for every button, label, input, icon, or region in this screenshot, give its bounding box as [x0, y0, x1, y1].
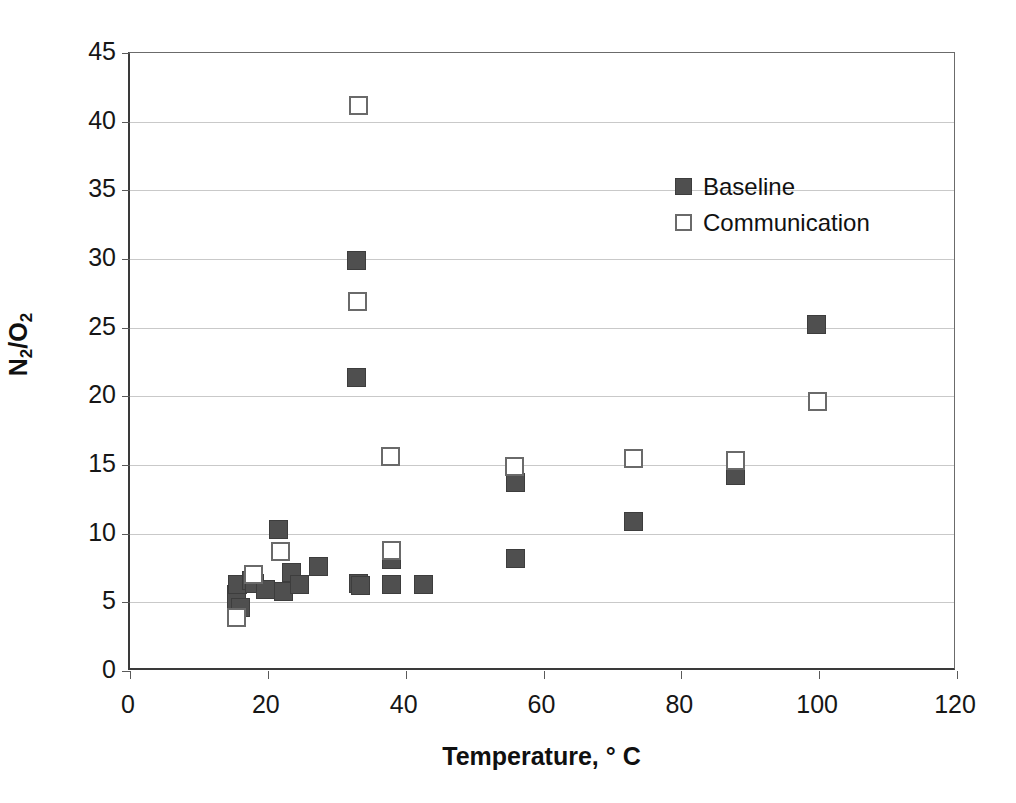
gridline — [130, 396, 954, 397]
y-tick-mark — [122, 465, 130, 466]
y-axis-title: N2/O2 — [4, 265, 33, 425]
gridline — [130, 122, 954, 123]
data-point-baseline — [414, 575, 433, 594]
data-point-communication — [624, 449, 643, 468]
data-point-baseline — [309, 557, 328, 576]
data-point-communication — [227, 608, 246, 627]
gridline — [130, 328, 954, 329]
x-tick-label: 80 — [639, 692, 719, 717]
data-point-communication — [808, 392, 827, 411]
y-tick-label: 10 — [88, 520, 116, 545]
scatter-chart-figure: 051015202530354045 N2/O2 BaselineCommuni… — [0, 0, 1016, 803]
x-tick-label: 20 — [226, 692, 306, 717]
y-tick-mark — [122, 328, 130, 329]
data-point-baseline — [347, 368, 366, 387]
data-point-baseline — [506, 549, 525, 568]
legend-swatch-baseline-icon — [675, 178, 692, 195]
x-tick-label: 40 — [364, 692, 444, 717]
gridline — [130, 259, 954, 260]
y-tick-mark — [122, 671, 130, 672]
y-tick-label: 20 — [88, 382, 116, 407]
data-point-baseline — [347, 251, 366, 270]
data-point-baseline — [807, 315, 826, 334]
data-point-communication — [244, 565, 263, 584]
data-point-baseline — [269, 520, 288, 539]
data-point-baseline — [290, 575, 309, 594]
legend-swatch-communication-icon — [675, 214, 692, 231]
y-tick-mark — [122, 53, 130, 54]
y-tick-label: 40 — [88, 108, 116, 133]
data-point-baseline — [382, 575, 401, 594]
x-tick-label: 100 — [777, 692, 857, 717]
y-tick-label: 30 — [88, 245, 116, 270]
y-tick-mark — [122, 190, 130, 191]
x-axis-tick-labels: 020406080100120 — [128, 678, 955, 722]
y-tick-mark — [122, 396, 130, 397]
legend-label: Baseline — [703, 171, 795, 203]
data-point-communication — [726, 451, 745, 470]
data-point-baseline — [506, 473, 525, 492]
y-tick-mark — [122, 259, 130, 260]
y-tick-label: 35 — [88, 176, 116, 201]
y-tick-mark — [122, 122, 130, 123]
legend-item-baseline: Baseline — [675, 171, 870, 203]
data-point-communication — [348, 292, 367, 311]
plot-area: BaselineCommunication — [128, 52, 955, 670]
x-tick-label: 0 — [88, 692, 168, 717]
data-point-communication — [382, 541, 401, 560]
legend-item-communication: Communication — [675, 207, 870, 239]
y-tick-label: 45 — [88, 39, 116, 64]
data-point-communication — [271, 542, 290, 561]
y-tick-mark — [122, 602, 130, 603]
y-tick-label: 15 — [88, 451, 116, 476]
data-point-communication — [349, 96, 368, 115]
x-axis-title: Temperature, ° C — [128, 742, 955, 771]
x-tick-label: 60 — [502, 692, 582, 717]
data-point-communication — [381, 447, 400, 466]
data-point-baseline — [351, 576, 370, 595]
y-tick-label: 25 — [88, 314, 116, 339]
y-axis-tick-labels: 051015202530354045 — [48, 52, 116, 670]
gridline — [130, 602, 954, 603]
gridline — [130, 534, 954, 535]
y-tick-mark — [122, 534, 130, 535]
data-point-communication — [505, 457, 524, 476]
y-tick-label: 5 — [102, 588, 116, 613]
y-tick-label: 0 — [102, 657, 116, 682]
x-tick-mark — [957, 671, 958, 679]
chart-legend: BaselineCommunication — [675, 171, 870, 242]
data-point-baseline — [624, 512, 643, 531]
x-tick-label: 120 — [915, 692, 995, 717]
legend-label: Communication — [703, 207, 870, 239]
gridline — [130, 465, 954, 466]
